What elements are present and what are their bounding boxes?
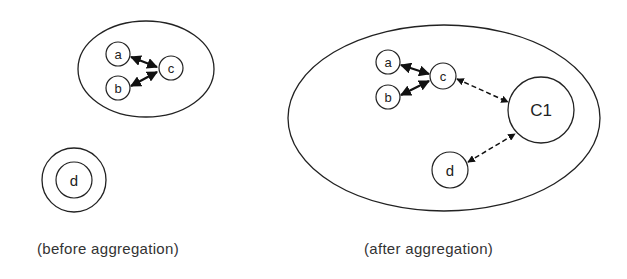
svg-text:C1: C1 — [530, 101, 552, 120]
svg-text:d: d — [70, 172, 78, 189]
svg-text:a: a — [384, 55, 392, 70]
before-aggregation-caption: (before aggregation) — [37, 240, 179, 257]
edge-d-C1-dashed — [468, 134, 515, 162]
node-a-after: a — [376, 50, 400, 74]
svg-text:b: b — [114, 81, 121, 96]
svg-text:d: d — [446, 162, 454, 179]
node-b-after: b — [376, 85, 400, 109]
svg-text:a: a — [114, 47, 122, 62]
before-aggregation-group: a b c d — [42, 21, 214, 212]
edge-a-c — [131, 57, 157, 67]
svg-text:c: c — [168, 61, 175, 76]
node-c: c — [159, 56, 183, 80]
node-d-after: d — [432, 152, 468, 188]
isolated-node-d: d — [42, 148, 106, 212]
aggregation-diagram: a b c d a b c — [0, 0, 627, 279]
edge-c-C1-dashed — [457, 79, 508, 102]
node-C1: C1 — [508, 77, 574, 143]
edge-a-c-after — [401, 65, 429, 74]
edge-b-c-after — [401, 81, 429, 95]
node-a: a — [106, 42, 130, 66]
cluster-boundary — [78, 21, 214, 117]
svg-text:c: c — [440, 69, 447, 84]
after-aggregation-caption: (after aggregation) — [364, 240, 493, 257]
node-c-after: c — [430, 63, 456, 89]
svg-text:b: b — [384, 90, 391, 105]
after-aggregation-group: a b c C1 d — [288, 25, 600, 211]
node-b: b — [106, 76, 130, 100]
edge-b-c — [131, 72, 157, 86]
